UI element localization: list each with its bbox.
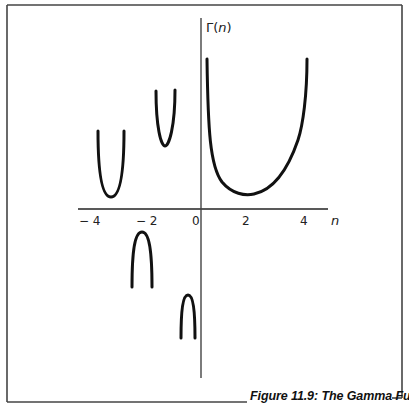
gamma-curves	[98, 59, 307, 338]
tick-label-2: 2	[242, 214, 250, 228]
y-axis-label: Γ(n)	[206, 20, 232, 35]
branch-n-minus4-minus3	[98, 131, 124, 197]
branch-n-positive	[207, 59, 307, 195]
gamma-function-figure: Γ(n) n − 4 − 2 0 2 4 Figure 11.9: The Ga…	[0, 0, 409, 411]
x-axis-label: n	[331, 213, 339, 228]
tick-label-4: 4	[300, 214, 308, 228]
tick-label-0: 0	[192, 214, 200, 228]
branch-n-minus1-0	[181, 295, 195, 338]
tick-label-minus-4: − 4	[79, 214, 101, 228]
tick-label-minus-2: − 2	[136, 214, 158, 228]
branch-n-minus3-minus2	[132, 232, 152, 287]
branch-n-minus2-minus1	[156, 90, 175, 146]
figure-caption: Figure 11.9: The Gamma Function	[250, 389, 409, 403]
gamma-plot	[0, 0, 409, 411]
figure-frame	[7, 5, 402, 402]
